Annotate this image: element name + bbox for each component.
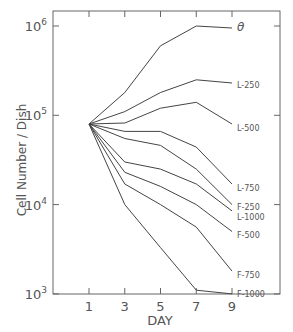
y-tick-label: 103 — [25, 285, 47, 302]
series-label: θ — [237, 20, 245, 34]
x-tick-label: 3 — [121, 299, 129, 314]
growth-curve-chart: 103104105106 13579 θL-250L-500L-750F-250… — [0, 0, 293, 332]
series-line — [89, 80, 232, 124]
series-lines — [89, 26, 232, 294]
series-line — [89, 124, 232, 232]
series-label: L-250 — [237, 81, 259, 90]
y-axis-ticks: 103104105106 — [25, 17, 280, 302]
series-labels: θL-250L-500L-750F-250L-1000F-500F-750F-1… — [237, 20, 265, 299]
y-axis-label: Cell Number / Dish — [15, 104, 29, 217]
plot-frame — [53, 11, 280, 294]
x-tick-label: 5 — [156, 299, 164, 314]
x-axis-label: DAY — [147, 313, 173, 328]
series-line — [89, 26, 232, 124]
x-tick-label: 7 — [192, 299, 200, 314]
y-tick-label: 106 — [25, 17, 48, 34]
series-label: L-500 — [237, 124, 259, 133]
x-axis-ticks: 13579 — [85, 11, 236, 314]
series-label: L-1000 — [237, 213, 265, 222]
series-label: F-250 — [237, 203, 260, 212]
series-line — [89, 124, 232, 211]
series-label: L-750 — [237, 184, 259, 193]
x-tick-label: 9 — [228, 299, 236, 314]
series-label: F-1000 — [237, 290, 265, 299]
series-label: F-750 — [237, 271, 260, 280]
series-line — [89, 124, 232, 294]
x-tick-label: 1 — [85, 299, 93, 314]
series-line — [89, 124, 232, 205]
series-label: F-500 — [237, 231, 260, 240]
